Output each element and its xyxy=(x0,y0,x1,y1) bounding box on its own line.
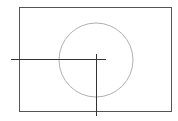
diagram-canvas xyxy=(0,0,178,121)
